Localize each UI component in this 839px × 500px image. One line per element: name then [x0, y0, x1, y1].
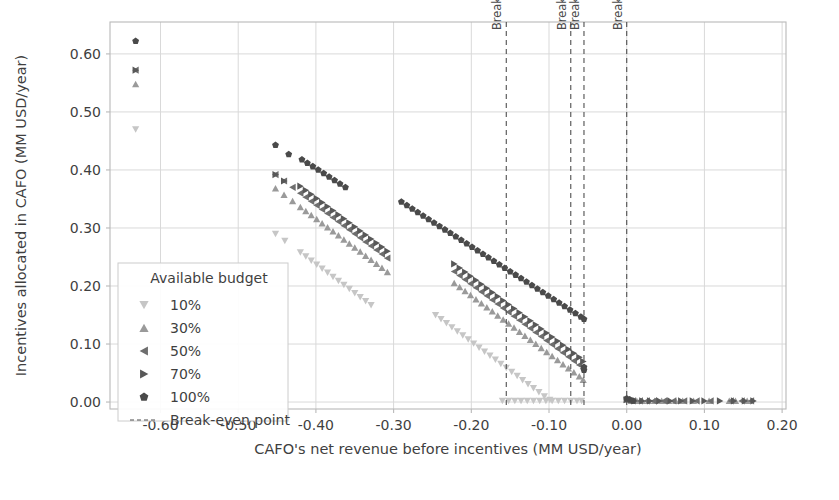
x-tick-label-8: 0.20: [767, 417, 798, 433]
data-point: [570, 369, 577, 375]
data-point: [500, 316, 507, 322]
data-point: [576, 373, 583, 379]
data-point: [536, 398, 543, 404]
data-point: [357, 294, 364, 300]
data-point: [559, 361, 566, 367]
data-point: [472, 296, 479, 302]
data-point: [483, 304, 490, 310]
legend-label: 70%: [170, 366, 201, 382]
data-point: [373, 261, 380, 267]
breakeven-label-3: Break-even point: 0 MM USD/year: [611, 0, 625, 30]
data-point: [285, 151, 292, 158]
data-point: [340, 236, 347, 242]
data-point: [443, 320, 450, 326]
data-point: [272, 141, 279, 148]
data-point: [378, 265, 385, 271]
data-point: [326, 173, 333, 180]
data-point: [514, 373, 521, 379]
data-point: [302, 253, 309, 259]
data-point: [319, 266, 326, 272]
data-point: [409, 205, 416, 212]
data-point: [497, 361, 504, 367]
data-point: [490, 257, 497, 264]
data-point: [507, 268, 514, 275]
data-point: [539, 289, 546, 296]
data-point: [331, 177, 338, 184]
data-point: [545, 292, 552, 299]
data-point: [420, 212, 427, 219]
data-point: [524, 381, 531, 387]
data-point: [313, 216, 320, 222]
data-point: [281, 238, 288, 244]
data-point: [403, 202, 410, 209]
data-point: [542, 398, 549, 404]
data-point: [313, 261, 320, 267]
data-point: [501, 264, 508, 271]
data-point: [580, 358, 586, 365]
data-point: [475, 344, 482, 350]
data-point: [432, 312, 439, 318]
y-tick-label-4: 0.40: [70, 162, 101, 178]
y-tick-label-0: 0.00: [70, 394, 101, 410]
data-point: [346, 286, 353, 292]
data-point: [398, 198, 405, 205]
data-point: [554, 357, 561, 363]
data-point: [556, 299, 563, 306]
data-point: [469, 244, 476, 251]
data-point: [530, 385, 537, 391]
x-tick-label-7: 0.10: [689, 417, 720, 433]
data-point: [357, 248, 364, 254]
x-tick-label-3: -0.30: [375, 417, 411, 433]
data-point: [492, 357, 499, 363]
data-point: [297, 190, 303, 197]
data-point: [474, 247, 481, 254]
data-point: [297, 249, 304, 255]
data-point: [535, 389, 542, 395]
y-tick-label-5: 0.50: [70, 104, 101, 120]
data-point: [335, 232, 342, 238]
data-point: [280, 191, 287, 197]
x-tick-label-6: 0.00: [611, 417, 642, 433]
data-point: [523, 278, 530, 285]
y-tick-label-3: 0.30: [70, 220, 101, 236]
data-point: [335, 278, 342, 284]
y-tick-label-1: 0.10: [70, 336, 101, 352]
data-point: [272, 185, 279, 191]
data-point: [555, 398, 562, 404]
data-point: [527, 337, 534, 343]
y-tick-label-6: 0.60: [70, 46, 101, 62]
data-point: [465, 336, 472, 342]
data-point: [510, 324, 517, 330]
data-point: [561, 398, 568, 404]
data-point: [297, 204, 304, 210]
data-point: [132, 38, 139, 45]
data-point: [340, 282, 347, 288]
data-point: [451, 280, 458, 286]
data-point: [132, 126, 139, 132]
data-point: [524, 398, 531, 404]
data-point: [329, 228, 336, 234]
data-point: [499, 398, 506, 404]
data-point: [346, 240, 353, 246]
breakeven-label-2: Break-even point: -0.055 MM USD/year: [568, 0, 582, 30]
data-point: [320, 170, 327, 177]
data-point: [459, 332, 466, 338]
data-point: [519, 377, 526, 383]
data-point: [717, 397, 723, 404]
scatter-plot: Break-even point: -0.155 MM USD/yearBrea…: [0, 0, 839, 500]
data-point: [308, 257, 315, 263]
data-point: [431, 219, 438, 226]
x-tick-label-5: -0.10: [531, 417, 567, 433]
data-point: [480, 250, 487, 257]
data-point: [425, 216, 432, 223]
data-point: [485, 254, 492, 261]
data-point: [518, 275, 525, 282]
data-point: [414, 209, 421, 216]
data-point: [538, 345, 545, 351]
data-point: [567, 306, 574, 313]
legend-title: Available budget: [150, 270, 268, 286]
data-point: [451, 268, 457, 275]
data-point: [298, 156, 305, 163]
data-point: [467, 292, 474, 298]
data-point: [517, 398, 524, 404]
